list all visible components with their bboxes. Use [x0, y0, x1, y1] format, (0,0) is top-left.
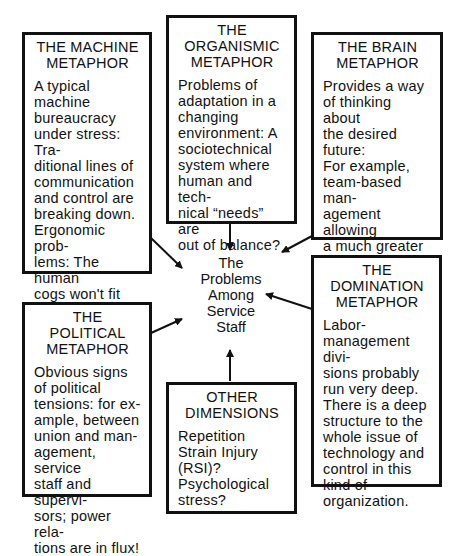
brain-metaphor-title: THE BRAIN METAPHOR	[323, 39, 432, 71]
other-dimensions-box: OTHER DIMENSIONS Repetition Strain Injur…	[166, 382, 297, 514]
machine-metaphor-title: THE MACHINE METAPHOR	[34, 39, 141, 71]
arrow-political	[151, 319, 182, 333]
brain-metaphor-box: THE BRAIN METAPHOR Provides a way of thi…	[311, 32, 443, 240]
organismic-metaphor-title: THE ORGANISMIC METAPHOR	[178, 22, 286, 70]
arrow-brain	[282, 236, 312, 252]
political-metaphor-body: Obvious signs of political tensions: for…	[34, 364, 141, 556]
domination-metaphor-box: THE DOMINATION METAPHOR Labor- managemen…	[311, 255, 442, 487]
organismic-metaphor-body: Problems of adaptation in a changing env…	[178, 77, 286, 253]
domination-metaphor-body: Labor- management divi- sions probably r…	[323, 317, 431, 509]
arrow-domination	[266, 294, 312, 309]
domination-metaphor-title: THE DOMINATION METAPHOR	[323, 262, 431, 310]
political-metaphor-box: THE POLITICAL METAPHOR Obvious signs of …	[22, 302, 152, 497]
organismic-metaphor-box: THE ORGANISMIC METAPHOR Problems of adap…	[166, 15, 297, 224]
political-metaphor-title: THE POLITICAL METAPHOR	[34, 309, 141, 357]
central-problem-label: The Problems Among Service Staff	[190, 255, 272, 335]
machine-metaphor-body: A typical machine bureaucracy under stre…	[34, 78, 141, 334]
other-dimensions-title: OTHER DIMENSIONS	[178, 389, 286, 421]
machine-metaphor-box: THE MACHINE METAPHOR A typical machine b…	[22, 32, 152, 274]
other-dimensions-body: Repetition Strain Injury (RSI)? Psycholo…	[178, 428, 286, 508]
